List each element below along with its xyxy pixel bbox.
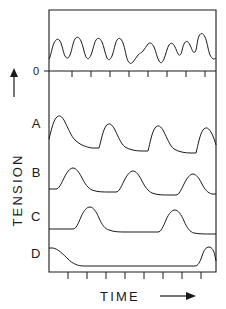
plot-svg: 0 A B C D TENSION TIME — [0, 0, 226, 309]
x-axis-title: TIME — [100, 289, 140, 304]
right-arrow-icon — [160, 292, 196, 300]
trace-label-b: B — [32, 165, 41, 180]
trace-d-curve — [49, 247, 216, 266]
trace-label-d: D — [31, 246, 41, 261]
tension-time-figure: 0 A B C D TENSION TIME — [0, 0, 226, 309]
trace-b-curve — [49, 168, 216, 195]
bottom-axis-ticks — [68, 272, 201, 279]
up-arrow-head — [10, 68, 18, 77]
trace-b-path-group — [49, 168, 216, 195]
trace-d-path-group — [49, 247, 216, 266]
right-arrow-head — [186, 292, 196, 300]
plot-frame — [44, 10, 216, 272]
trace-c-path-group — [49, 207, 216, 234]
trace-label-a: A — [32, 116, 41, 131]
y-axis-title: TENSION — [10, 153, 25, 226]
zero-axis-ticks — [72, 71, 205, 77]
trace-a-curve — [49, 116, 216, 153]
up-arrow-icon — [10, 68, 18, 97]
trace-top-oscillation — [49, 33, 216, 63]
zero-axis-label: 0 — [33, 65, 39, 77]
plot-border — [49, 10, 216, 272]
oscillation-path — [49, 33, 216, 63]
trace-c-curve — [49, 207, 216, 234]
trace-label-c: C — [31, 209, 41, 224]
trace-a-path-group — [49, 116, 216, 153]
